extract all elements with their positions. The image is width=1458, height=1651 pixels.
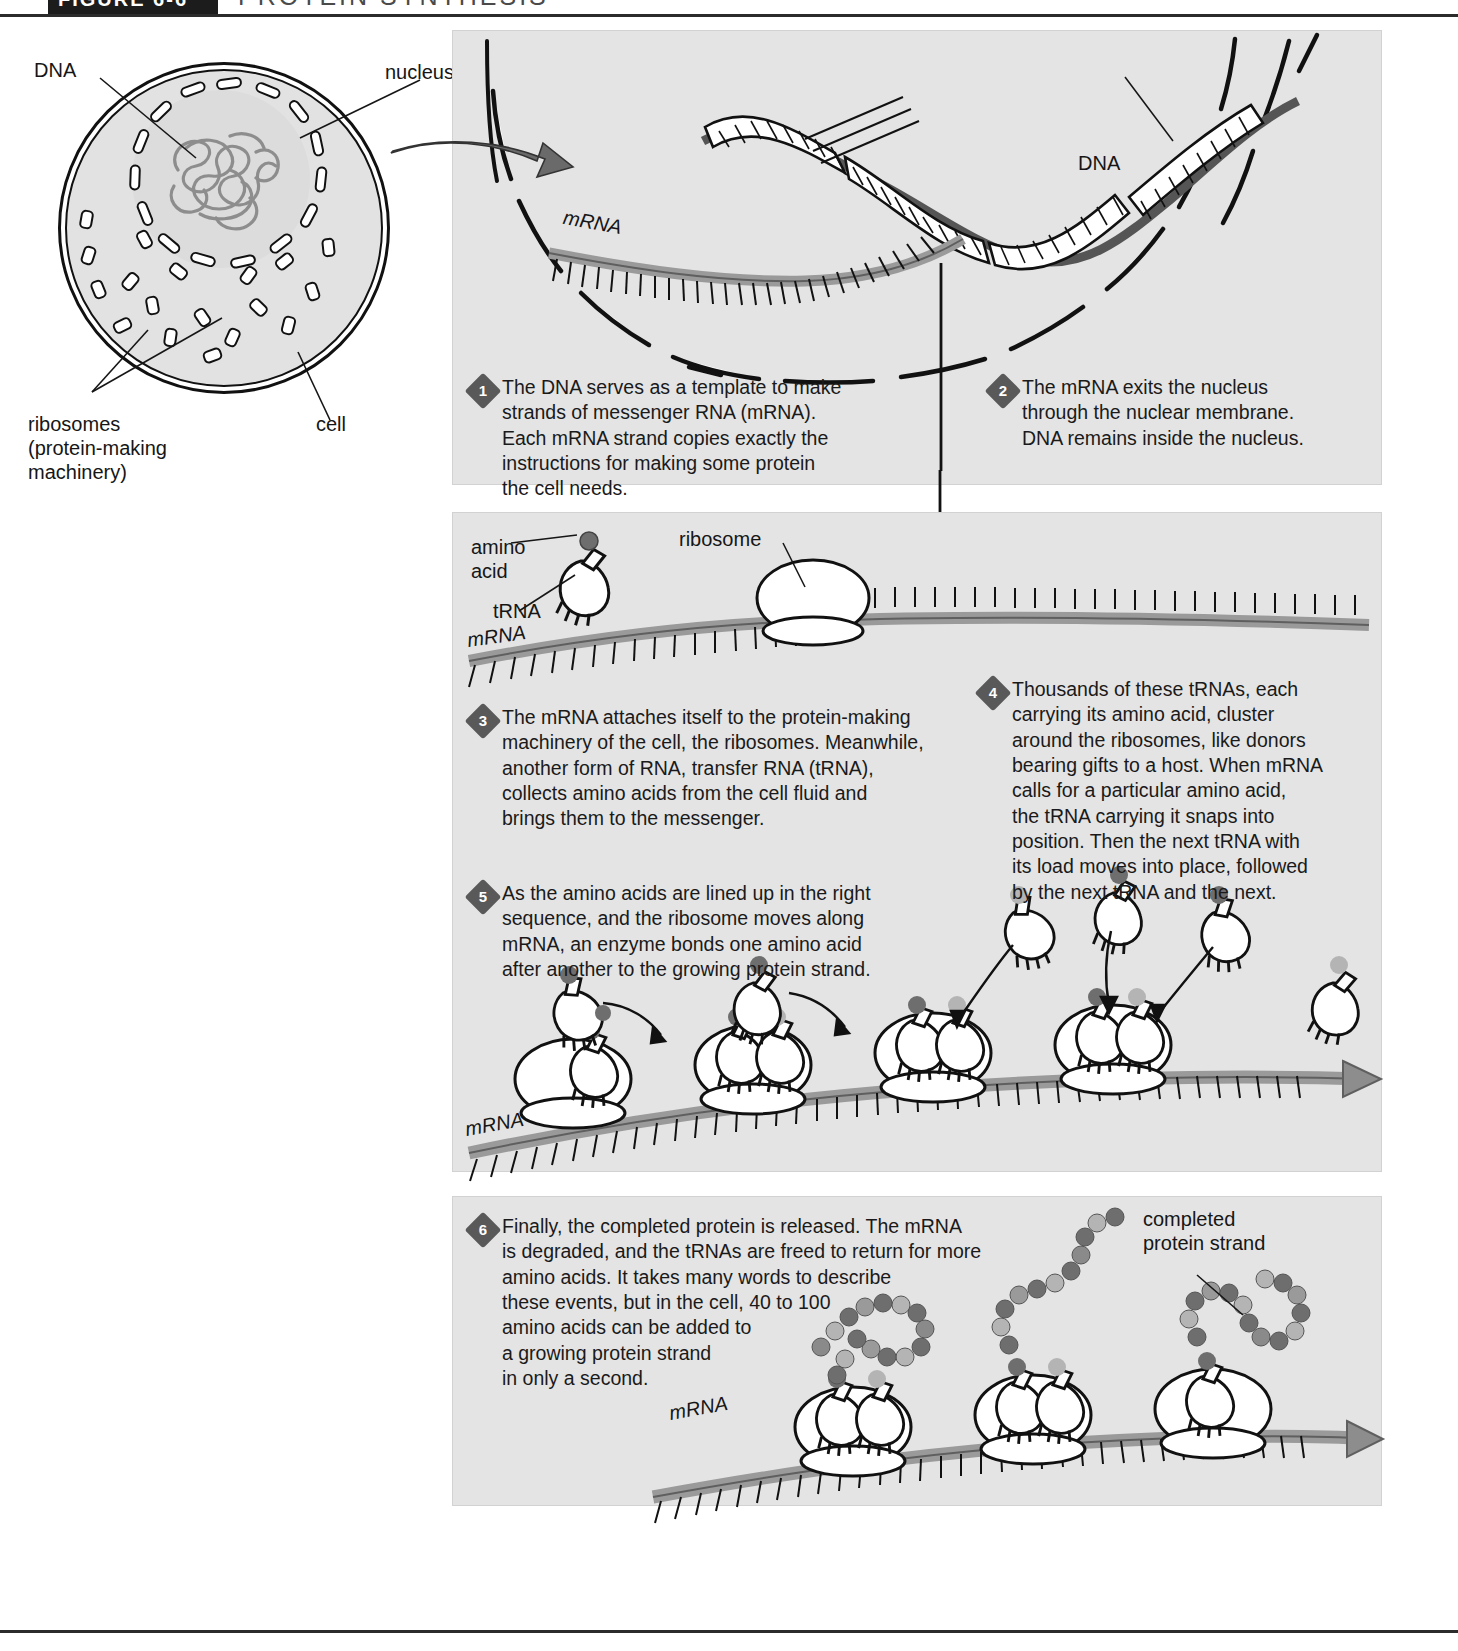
step-number-6: 6 <box>470 1217 496 1243</box>
label-ribosomes: ribosomes (protein-making machinery) <box>28 412 167 484</box>
label-trna: tRNA <box>493 599 541 623</box>
step-number-2: 2 <box>990 378 1016 404</box>
step-text-4: Thousands of these tRNAs, each carrying … <box>1012 677 1377 905</box>
step-marker-4: 4 <box>975 675 1012 712</box>
step-marker-5: 5 <box>465 879 502 916</box>
step-text-2: The mRNA exits the nucleus through the n… <box>1022 375 1372 451</box>
step-number-4: 4 <box>980 680 1006 706</box>
label-cell: cell <box>316 412 346 436</box>
step-marker-1: 1 <box>465 373 502 410</box>
step-text-6: Finally, the completed protein is releas… <box>502 1214 1022 1391</box>
label-completed-protein: completed protein strand <box>1143 1207 1265 1255</box>
step-text-1: The DNA serves as a template to make str… <box>502 375 932 502</box>
label-dna-panel1: DNA <box>1078 151 1120 175</box>
step-text-5: As the amino acids are lined up in the r… <box>502 881 972 982</box>
figure-page: FIGURE 6-6 PROTEIN SYNTHESIS <box>0 0 1458 1651</box>
step-marker-6: 6 <box>465 1212 502 1249</box>
step-text-3: The mRNA attaches itself to the protein-… <box>502 705 982 832</box>
step-marker-2: 2 <box>985 373 1022 410</box>
label-amino-acid: amino acid <box>471 535 525 583</box>
step-marker-3: 3 <box>465 703 502 740</box>
label-dna-cell: DNA <box>34 58 76 82</box>
footer-divider <box>0 1630 1458 1633</box>
label-nucleus: nucleus <box>385 60 454 84</box>
step-number-3: 3 <box>470 708 496 734</box>
step-number-1: 1 <box>470 378 496 404</box>
step-number-5: 5 <box>470 884 496 910</box>
label-ribosome: ribosome <box>679 527 761 551</box>
